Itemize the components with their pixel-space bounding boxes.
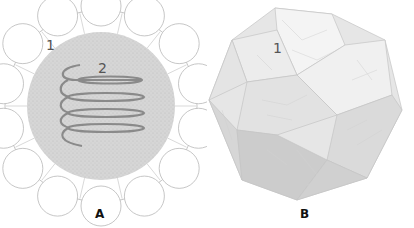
panel-label-b: B (300, 207, 309, 221)
annotation-1: 1 (46, 37, 55, 53)
annotation-1: 1 (273, 40, 282, 56)
polyhedral-shell-diagram (207, 0, 414, 228)
cross-section-diagram (0, 0, 207, 228)
panel-b: 1 B (207, 0, 414, 228)
annotation-2: 2 (98, 60, 107, 76)
panel-a: 1 2 A (0, 0, 207, 228)
panel-label-a: A (95, 207, 104, 221)
